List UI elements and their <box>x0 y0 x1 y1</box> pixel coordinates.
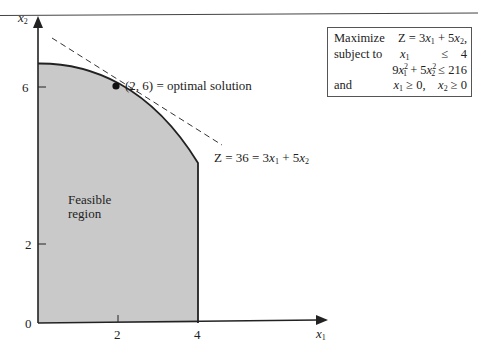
constraint-row-1: subject to x1 ≤ 4 <box>334 47 467 63</box>
xtick-2-label: 2 <box>114 327 121 343</box>
objective-row: Maximize Z = 3x1 + 5x2, <box>334 31 467 47</box>
y-axis-label: x2 <box>18 10 28 26</box>
constraint-2-expr: 9x21 + 5x22 ≤ 216 <box>392 62 467 78</box>
optimal-point <box>112 82 119 89</box>
feasible-label-line2: region <box>68 207 111 221</box>
subject-to-label: subject to <box>334 47 382 62</box>
feasible-region <box>38 63 198 323</box>
and-label: and <box>334 78 352 93</box>
constraint-1-lhs: x1 <box>400 47 410 62</box>
objective-expr: Z = 3x1 + 5x2, <box>398 31 467 46</box>
feasible-region-label: Feasible region <box>68 193 111 221</box>
maximize-label: Maximize <box>334 31 385 46</box>
nonnegativity-expr: x1 ≥ 0, x2 ≥ 0 <box>394 78 468 93</box>
ytick-2-label: 2 <box>25 237 32 253</box>
nonnegativity-row: and x1 ≥ 0, x2 ≥ 0 <box>334 78 467 94</box>
optimal-solution-label: (2, 6) = optimal solution <box>125 78 252 94</box>
problem-formulation-box: Maximize Z = 3x1 + 5x2, subject to x1 ≤ … <box>327 27 472 97</box>
xtick-4-label: 4 <box>194 327 201 343</box>
origin-label: 0 <box>25 316 32 332</box>
y-axis-arrow-icon <box>33 16 43 28</box>
x-axis-label: x1 <box>316 326 326 342</box>
constraint-row-2: 9x21 + 5x22 ≤ 216 <box>334 62 467 78</box>
constraint-1-rhs: ≤ 4 <box>441 47 467 62</box>
x-axis-arrow-icon <box>316 315 328 325</box>
ytick-6-label: 6 <box>22 80 29 96</box>
feasible-label-line1: Feasible <box>68 193 111 207</box>
objective-line-label: Z = 36 = 3x1 + 5x2 <box>214 150 309 166</box>
